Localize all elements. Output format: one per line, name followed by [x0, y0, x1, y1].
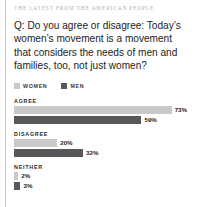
bar-group-disagree: DISAGREE 20% 32% — [14, 131, 208, 157]
bar-group-label: DISAGREE — [14, 131, 208, 137]
bar-row-men: 32% — [14, 149, 208, 157]
bar-group-label: NEITHER — [14, 164, 208, 170]
bar-men — [14, 182, 20, 190]
bar-group-agree: AGREE 73% 59% — [14, 98, 208, 124]
legend-entry-men: MEN — [61, 83, 84, 89]
bar-women — [14, 106, 172, 114]
bar-value-men: 3% — [23, 182, 32, 190]
legend-swatch-women-icon — [14, 83, 20, 89]
bar-chart: AGREE 73% 59% DISAGREE 20% 32% NEITHER — [14, 98, 208, 190]
bar-group-label: AGREE — [14, 98, 208, 104]
bar-row-women: 73% — [14, 106, 208, 114]
bar-value-women: 2% — [21, 172, 30, 180]
kicker-heading: THE LATEST FROM THE AMERICAN PEOPLE — [14, 0, 208, 11]
bar-group-neither: NEITHER 2% 3% — [14, 164, 208, 190]
legend-label-women: WOMEN — [23, 83, 47, 89]
bar-men — [14, 116, 141, 124]
bar-value-women: 20% — [60, 139, 72, 147]
bar-row-men: 3% — [14, 182, 208, 190]
chart-legend: WOMEN MEN — [14, 83, 208, 89]
bar-row-women: 2% — [14, 172, 208, 180]
bar-value-women: 73% — [175, 106, 187, 114]
poll-question: Q: Do you agree or disagree: Today’s wom… — [14, 19, 190, 73]
bar-row-women: 20% — [14, 139, 208, 147]
bar-women — [14, 139, 57, 147]
bar-value-men: 59% — [144, 116, 156, 124]
legend-swatch-men-icon — [61, 83, 67, 89]
infographic-panel: THE LATEST FROM THE AMERICAN PEOPLE Q: D… — [14, 0, 208, 207]
legend-entry-women: WOMEN — [14, 83, 47, 89]
bar-value-men: 32% — [86, 149, 98, 157]
bar-row-men: 59% — [14, 116, 208, 124]
bar-women — [14, 172, 18, 180]
legend-label-men: MEN — [70, 83, 84, 89]
left-edge-rule — [5, 0, 6, 207]
bar-men — [14, 149, 83, 157]
